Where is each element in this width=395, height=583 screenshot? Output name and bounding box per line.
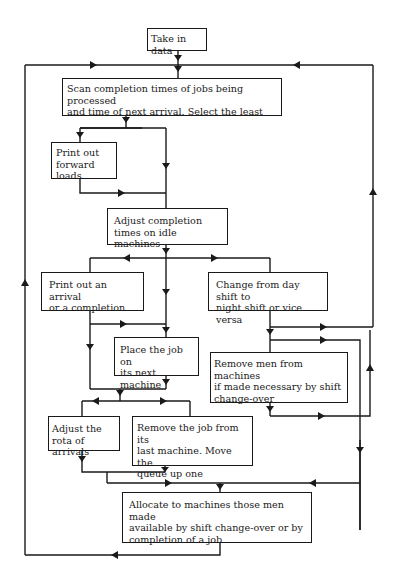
adjust-completion-times-box: Adjust completion times on idle machines [107, 208, 228, 245]
scan-completion-times-box: Scan completion times of jobs being proc… [62, 78, 282, 116]
print-arrival-completion-box: Print out an arrival or a completion [41, 272, 144, 311]
print-forward-loads-box: Print out forward loads [51, 142, 117, 179]
flowchart: Take in data Scan completion times of jo… [0, 0, 395, 583]
remove-job-box: Remove the job from its last machine. Mo… [132, 416, 253, 466]
allocate-men-box: Allocate to machines those men made avai… [122, 492, 312, 543]
remove-men-box: Remove men from machines if made necessa… [210, 352, 348, 403]
place-job-box: Place the job on its next machine [114, 337, 199, 376]
adjust-rota-box: Adjust the rota of arrivals [48, 416, 120, 451]
change-shift-box: Change from day shift to night shift or … [208, 272, 328, 311]
take-in-data-box: Take in data [147, 28, 207, 51]
